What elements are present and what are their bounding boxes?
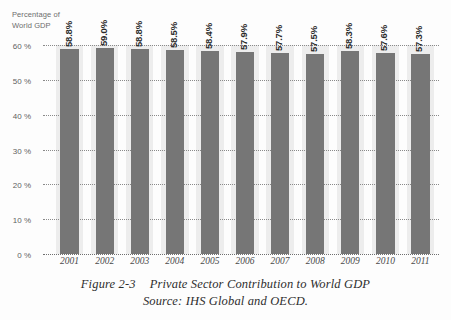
bar-cell: 57.3% — [403, 45, 438, 254]
bar: 57.3% — [411, 54, 429, 254]
x-axis-tick-label: 2010 — [368, 256, 403, 266]
bar-value-label: 57.7% — [273, 25, 284, 51]
caption-title-line: Figure 2-3Private Sector Contribution to… — [0, 276, 451, 293]
bar-value-label: 57.6% — [378, 25, 389, 51]
x-axis-tick-label: 2011 — [403, 256, 438, 266]
bar-value-label: 58.4% — [203, 23, 214, 49]
x-axis-tick-label: 2004 — [157, 256, 192, 266]
y-axis-tick-label: 50 % — [13, 76, 31, 85]
x-axis-tick-label: 2002 — [87, 256, 122, 266]
bar: 58.8% — [60, 49, 78, 254]
bar-cell: 58.3% — [333, 45, 368, 254]
figure-number: Figure 2-3 — [81, 277, 136, 291]
bar-cell: 57.7% — [263, 45, 298, 254]
bar-value-label: 57.3% — [413, 26, 424, 52]
figure-caption: Figure 2-3Private Sector Contribution to… — [0, 276, 451, 310]
x-axis-tick-label: 2001 — [52, 256, 87, 266]
bar-value-label: 58.8% — [63, 21, 74, 47]
x-axis-tick-label: 2007 — [263, 256, 298, 266]
bar: 57.9% — [236, 52, 254, 254]
x-axis-tick-labels: 2001200220032004200520062007200820092010… — [52, 256, 438, 266]
bar-value-label: 58.5% — [168, 22, 179, 48]
x-axis-tick-label: 2003 — [122, 256, 157, 266]
bar: 59.0% — [96, 48, 114, 254]
bar-value-label: 58.3% — [343, 23, 354, 49]
bar-cell: 58.5% — [157, 45, 192, 254]
bar-cell: 57.5% — [298, 45, 333, 254]
bar-cell: 58.8% — [52, 45, 87, 254]
bar-value-label: 59.0% — [98, 21, 109, 47]
bar-value-label: 57.9% — [238, 24, 249, 50]
bar: 57.5% — [306, 54, 324, 254]
figure-title: Private Sector Contribution to World GDP — [150, 277, 370, 291]
y-axis-tick-label: 0 % — [17, 251, 31, 260]
figure-container: Percentage of World GDP 0 %10 %20 %30 %4… — [0, 0, 451, 320]
bar-cell: 59.0% — [87, 45, 122, 254]
y-axis-tick-label: 60 % — [13, 42, 31, 51]
bar: 57.6% — [376, 53, 394, 254]
x-axis-tick-label: 2006 — [227, 256, 262, 266]
plot-area: 0 %10 %20 %30 %40 %50 %60 % 58.8%59.0%58… — [52, 45, 438, 254]
bar-cell: 58.8% — [122, 45, 157, 254]
y-axis-tick-label: 30 % — [13, 146, 31, 155]
y-axis-tick-label: 40 % — [13, 111, 31, 120]
figure-source: Source: IHS Global and OECD. — [0, 293, 451, 310]
bar-value-label: 57.5% — [308, 26, 319, 52]
x-axis-tick-label: 2005 — [192, 256, 227, 266]
bar-value-label: 58.8% — [133, 21, 144, 47]
y-axis-title: Percentage of World GDP — [12, 10, 60, 31]
x-axis-tick-label: 2008 — [298, 256, 333, 266]
x-axis-tick-label: 2009 — [333, 256, 368, 266]
bar: 57.7% — [271, 53, 289, 254]
bar: 58.8% — [131, 49, 149, 254]
bar-cell: 58.4% — [192, 45, 227, 254]
bar-cell: 57.6% — [368, 45, 403, 254]
bar: 58.4% — [201, 51, 219, 254]
bar: 58.5% — [166, 50, 184, 254]
bar: 58.3% — [341, 51, 359, 254]
y-axis-tick-label: 20 % — [13, 181, 31, 190]
y-axis-tick-label: 10 % — [13, 216, 31, 225]
gridline: 0 % — [43, 254, 439, 255]
bar-cell: 57.9% — [227, 45, 262, 254]
bar-series: 58.8%59.0%58.8%58.5%58.4%57.9%57.7%57.5%… — [52, 45, 438, 254]
